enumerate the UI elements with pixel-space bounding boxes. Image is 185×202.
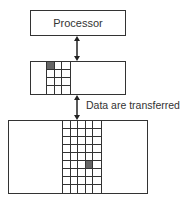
- arrows: [0, 0, 185, 202]
- cache-memory-arrow-icon: [74, 95, 80, 120]
- processor-cache-arrow-icon: [74, 36, 80, 61]
